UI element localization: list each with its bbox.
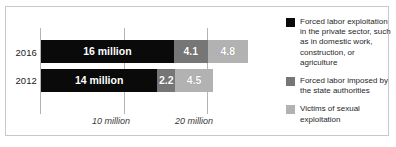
chart-figure: 2016 2012 16 million 4.1 4.8 14 million … xyxy=(0,0,396,147)
bar-segment-label-state-2016: 4.1 xyxy=(184,46,199,57)
bar-segment-label-sexual-2012: 4.5 xyxy=(187,75,202,86)
bar-segment-sexual-2016: 4.8 xyxy=(208,40,248,63)
bar-segment-sexual-2012: 4.5 xyxy=(175,69,212,92)
bar-segment-state-2012: 2.2 xyxy=(157,69,175,92)
bar-row-2012: 14 million 2.2 4.5 xyxy=(41,69,213,92)
x-tick-label-10-million: 10 million xyxy=(92,116,130,126)
category-label-2012: 2012 xyxy=(3,75,37,86)
bar-row-2016: 16 million 4.1 4.8 xyxy=(41,40,248,63)
legend-label-state-authorities: Forced labor imposed by the state author… xyxy=(300,76,392,96)
black-swatch-icon xyxy=(286,18,295,27)
bar-segment-label-state-2012: 2.2 xyxy=(159,75,174,86)
legend-item-private-sector: Forced labor exploitation in the private… xyxy=(286,17,392,68)
bar-segment-label-private-2012: 14 million xyxy=(75,75,123,86)
bar-segment-state-2016: 4.1 xyxy=(174,40,208,63)
dark-gray-swatch-icon xyxy=(286,77,295,86)
x-tick-label-20-million: 20 million xyxy=(175,116,213,126)
bar-segment-private-2012: 14 million xyxy=(41,69,157,92)
light-gray-swatch-icon xyxy=(286,105,295,114)
bar-segment-label-sexual-2016: 4.8 xyxy=(220,46,235,57)
legend-label-private-sector: Forced labor exploitation in the private… xyxy=(300,17,392,68)
bar-segment-label-private-2016: 16 million xyxy=(83,46,131,57)
category-label-2016: 2016 xyxy=(3,47,37,58)
bar-segment-private-2016: 16 million xyxy=(41,40,174,63)
legend-item-state-authorities: Forced labor imposed by the state author… xyxy=(286,76,392,96)
legend-item-sexual-exploitation: Victims of sexual exploitation xyxy=(286,104,392,124)
legend-label-sexual-exploitation: Victims of sexual exploitation xyxy=(300,104,392,124)
plot-area: 2016 2012 16 million 4.1 4.8 14 million … xyxy=(0,0,282,147)
chart-legend: Forced labor exploitation in the private… xyxy=(286,17,392,133)
